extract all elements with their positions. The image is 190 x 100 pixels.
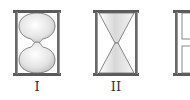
hourglass-figure-3 [160, 0, 190, 80]
hourglass-rectangular-icon [160, 0, 190, 80]
hourglass-rounded-bulbs-icon [0, 0, 70, 80]
hourglass-conical-icon [80, 0, 150, 80]
figure-label-2: II [96, 80, 136, 94]
figure-label-1: I [17, 80, 57, 94]
hourglass-figure-1 [0, 0, 70, 80]
hourglass-figure-2 [80, 0, 150, 80]
